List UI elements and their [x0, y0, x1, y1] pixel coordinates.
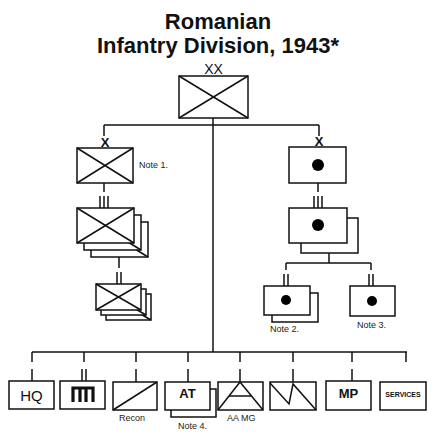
left-brigade-symbol: [77, 148, 133, 183]
signal-symbol: [60, 381, 105, 409]
left-regiment-symbols: [77, 208, 148, 257]
services-label: SERVICES: [380, 391, 426, 398]
aa-mg-label: AA MG: [227, 413, 256, 423]
at-label: AT: [165, 386, 210, 401]
left-battalion-symbols: [96, 284, 151, 320]
mp-label: MP: [326, 386, 371, 401]
right-battalion-note3-symbol: [350, 286, 395, 316]
note-4-label: Note 4.: [178, 421, 207, 431]
division-rank-mark: XX: [204, 61, 223, 77]
signal-engineer-symbol: [270, 382, 316, 410]
note-3-label: Note 3.: [357, 320, 386, 330]
recon-symbol: [113, 382, 157, 410]
note-2-label: Note 2.: [270, 324, 299, 334]
right-battalion-note2-symbols: [264, 286, 318, 322]
hq-label: HQ: [9, 387, 54, 404]
aa-mg-symbol: [218, 382, 263, 410]
right-brigade-symbol: [289, 147, 346, 183]
right-regiment-symbols: [289, 208, 358, 253]
org-chart: XX X X: [0, 0, 436, 440]
recon-label: Recon: [119, 413, 145, 423]
division-symbol: [179, 76, 248, 118]
note-1-label: Note 1.: [139, 160, 168, 170]
